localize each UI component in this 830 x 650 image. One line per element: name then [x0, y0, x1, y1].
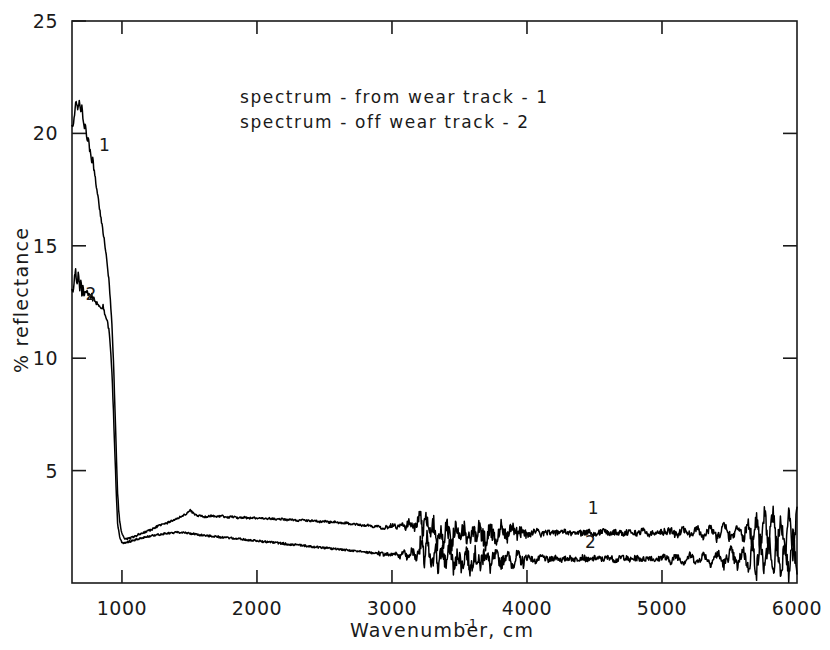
curve-1-right-tag: 1 — [588, 498, 599, 518]
reflectance-spectrum-chart: 100020003000400050006000 510152025 1212 … — [0, 0, 830, 650]
x-tick-label: 2000 — [232, 597, 282, 619]
y-axis-title-text: % reflectance — [10, 227, 32, 373]
y-tick-label: 20 — [33, 122, 58, 144]
curve-2-right-tag: 2 — [585, 532, 596, 552]
spectrum-figure: 100020003000400050006000 510152025 1212 … — [0, 0, 830, 650]
x-axis-title-superscript: -1 — [464, 616, 477, 631]
x-tick-label: 1000 — [97, 597, 147, 619]
x-axis-title: Wavenumber, cm -1 — [350, 616, 534, 641]
legend-entry-2: spectrum - off wear track - 2 — [240, 112, 530, 132]
x-tick-label: 3000 — [367, 597, 417, 619]
x-tick-label: 5000 — [637, 597, 687, 619]
y-tick-label: 5 — [45, 460, 58, 482]
curve-2-left-tag: 2 — [86, 284, 97, 304]
x-tick-label: 4000 — [502, 597, 552, 619]
x-axis-title-text: Wavenumber, cm — [350, 619, 534, 641]
x-tick-label: 6000 — [772, 597, 822, 619]
curve-1-left-tag: 1 — [99, 135, 110, 155]
legend-entry-1: spectrum - from wear track - 1 — [240, 87, 549, 107]
y-tick-label: 25 — [33, 10, 58, 32]
y-tick-label: 15 — [33, 235, 58, 257]
y-tick-label: 10 — [33, 347, 58, 369]
